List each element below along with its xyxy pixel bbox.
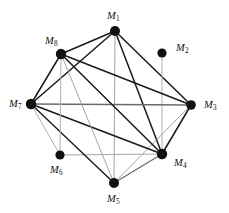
graph-node-m3[interactable] [186, 100, 196, 110]
graph-node-m4[interactable] [157, 149, 167, 159]
node-label-base: M [174, 157, 183, 168]
node-label-base: M [50, 164, 59, 175]
graph-node-m6[interactable] [55, 150, 64, 159]
node-label-base: M [9, 98, 18, 109]
node-label-subscript: 4 [183, 162, 187, 170]
graph-edge [31, 104, 60, 155]
node-label-m3: M3 [204, 100, 217, 111]
graph-node-m2[interactable] [157, 48, 166, 57]
graph-edge [31, 31, 115, 104]
graph-edge [61, 31, 115, 54]
node-label-base: M [107, 10, 116, 21]
graph-edge [31, 54, 61, 104]
graph-node-m7[interactable] [26, 99, 36, 109]
graph-edge [31, 104, 162, 154]
graph-figure: M1M2M3M4M5M6M7M8 [0, 0, 229, 213]
node-label-subscript: 8 [54, 40, 58, 48]
node-label-base: M [107, 193, 116, 204]
node-label-subscript: 3 [213, 104, 217, 112]
node-label-m2: M2 [176, 43, 189, 54]
node-label-m6: M6 [50, 165, 63, 176]
node-label-subscript: 5 [116, 198, 120, 206]
node-label-base: M [204, 99, 213, 110]
graph-canvas [0, 0, 229, 213]
graph-edge [60, 54, 61, 155]
node-label-subscript: 2 [185, 47, 189, 55]
node-label-m5: M5 [107, 194, 120, 205]
node-label-base: M [176, 42, 185, 53]
graph-node-m5[interactable] [109, 178, 119, 188]
graph-node-m1[interactable] [110, 26, 120, 36]
node-label-m4: M4 [174, 158, 187, 169]
node-label-m8: M8 [45, 36, 58, 47]
node-label-m7: M7 [9, 99, 22, 110]
graph-edge [60, 154, 162, 155]
node-label-subscript: 1 [116, 15, 120, 23]
graph-edge [115, 31, 162, 154]
node-label-m1: M1 [107, 11, 120, 22]
node-label-subscript: 6 [59, 169, 63, 177]
node-label-base: M [45, 35, 54, 46]
edge-layer [31, 31, 191, 183]
graph-edge [31, 104, 114, 183]
graph-node-m8[interactable] [56, 49, 66, 59]
node-label-subscript: 7 [18, 103, 22, 111]
